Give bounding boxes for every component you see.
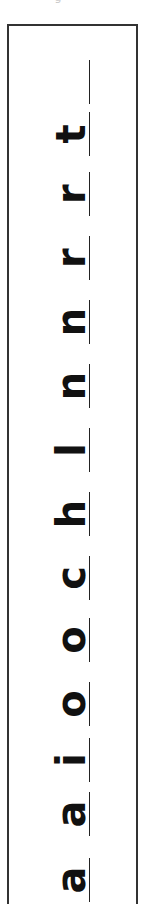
letter-slot: c [0,548,151,608]
letter: n [51,356,91,416]
baseline [89,112,90,156]
letter-slot: l [0,420,151,480]
letter: a [51,784,91,844]
baseline [89,236,90,280]
letter: o [51,610,91,670]
baseline [89,858,90,902]
letter: n [51,292,91,352]
baseline [89,364,90,408]
baseline [89,792,90,836]
baseline [89,428,90,472]
letter-slot: a [0,850,151,908]
baseline [89,618,90,662]
letter: r [51,228,91,288]
baseline [89,300,90,344]
letter: r [51,164,91,224]
letter: t [51,104,91,164]
letter: i [51,730,91,790]
letter: h [51,484,91,544]
letter-slot: r [0,228,151,288]
baseline [89,556,90,600]
letter-slot: a [0,784,151,844]
letter-slot: h [0,484,151,544]
letter-slot: r [0,164,151,224]
letter-slot: o [0,610,151,670]
baseline [89,60,90,104]
baseline [89,492,90,536]
baseline [89,172,90,216]
letter-slot: t [0,104,151,164]
letter-slot: i [0,730,151,790]
letter-slot: n [0,292,151,352]
letter: c [51,548,91,608]
letter-slot: o [0,674,151,734]
baseline [89,682,90,726]
letter-slot: n [0,356,151,416]
baseline [89,738,90,782]
letter: l [51,420,91,480]
blank-writing-line [0,52,151,112]
letter: o [51,674,91,734]
letter: a [51,850,91,908]
